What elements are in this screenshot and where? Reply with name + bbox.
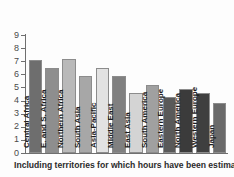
- bar-category-label: Western Europe: [191, 87, 199, 148]
- chart-figure: 0123456789 Central AfricaE. and S. Afric…: [0, 0, 234, 177]
- bar-category-label: East Asia: [124, 112, 132, 148]
- bar-category-label: Asia-Pacific: [90, 103, 98, 148]
- bar: Japan: [213, 103, 226, 153]
- y-axis-tick: [21, 74, 26, 75]
- y-axis-tick: [21, 61, 26, 62]
- bar-category-label: South Asia: [74, 107, 82, 148]
- y-axis-label: 4: [8, 96, 19, 105]
- chart-footnote: Including territories for which hours ha…: [14, 160, 234, 170]
- y-axis-tick: [21, 153, 26, 154]
- bar-category-label: Central Africa: [23, 96, 31, 148]
- y-axis-tick: [21, 35, 26, 36]
- bar-category-label: Northern Africa: [57, 90, 65, 148]
- x-axis-line: [25, 153, 228, 154]
- y-axis-label: 5: [8, 83, 19, 92]
- y-axis-label: 8: [8, 44, 19, 53]
- y-axis-label: 3: [8, 109, 19, 118]
- y-axis-tick: [21, 87, 26, 88]
- bar-category-label: North America: [174, 93, 182, 148]
- y-axis-tick: [21, 48, 26, 49]
- bar-category-label: Japan: [208, 125, 216, 148]
- y-axis-label: 1: [8, 135, 19, 144]
- y-axis-label: 7: [8, 57, 19, 66]
- bar-category-label: Middle East: [107, 104, 115, 148]
- y-axis-label: 2: [8, 122, 19, 131]
- y-axis-label: 9: [8, 31, 19, 40]
- bar-category-label: E. and S. Africa: [40, 90, 48, 148]
- y-axis-label: 6: [8, 70, 19, 79]
- y-axis-label: 0: [8, 149, 19, 158]
- bar-category-label: South America: [141, 92, 149, 148]
- bar-chart-plot: 0123456789 Central AfricaE. and S. Afric…: [0, 0, 234, 177]
- bar-category-label: Eastern Europe: [157, 89, 165, 148]
